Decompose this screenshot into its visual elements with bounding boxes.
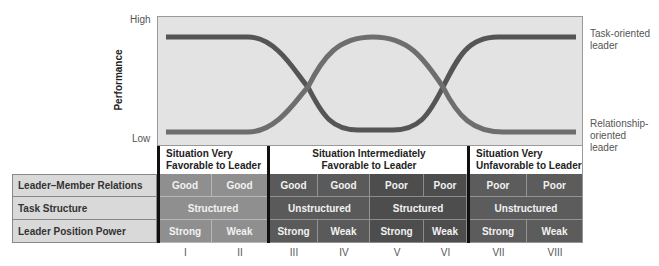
legend-task-oriented: Task-oriented leader: [590, 28, 650, 52]
y-axis-low-label: Low: [132, 133, 150, 144]
lmr-cell-I: Good: [159, 174, 212, 197]
lmr-cell-IV: Good: [318, 174, 370, 197]
performance-chart: [157, 16, 583, 146]
divider-favorable-intermediate: [267, 146, 270, 243]
power-cell-IV: Weak: [318, 220, 370, 243]
legend-rel-line2: oriented: [590, 130, 648, 142]
legend-task-line2: leader: [590, 40, 650, 52]
power-cell-III: Strong: [270, 220, 318, 243]
lmr-cell-VI: Poor: [424, 174, 467, 197]
lmr-cell-VIII: Poor: [527, 174, 583, 197]
task-structure-cell-III-IV: Unstructured: [270, 197, 370, 220]
task-structure-cell-VII-VIII: Unstructured: [470, 197, 583, 220]
task-oriented-curve: [166, 37, 576, 130]
situation-header-unfavorable: Situation Very Unfavorable to Leader: [470, 146, 583, 174]
situation-header-intermediate: Situation Intermediately Favorable to Le…: [271, 146, 467, 174]
divider-intermediate-unfavorable: [467, 146, 470, 243]
octant-label-VII: VII: [470, 247, 527, 258]
relationship-oriented-curve: [166, 37, 576, 132]
row-label-task-structure: Task Structure: [12, 197, 157, 220]
legend-relationship-oriented: Relationship- oriented leader: [590, 118, 648, 154]
octant-label-II: II: [212, 247, 268, 258]
situation-unfavorable-line1: Situation Very: [476, 148, 582, 160]
lmr-cell-III: Good: [270, 174, 318, 197]
lmr-cell-V: Poor: [370, 174, 424, 197]
row-label-position-power: Leader Position Power: [12, 220, 157, 243]
situation-favorable-line1: Situation Very: [166, 148, 268, 160]
task-structure-cell-I-II: Structured: [159, 197, 268, 220]
octant-label-IV: IV: [318, 247, 370, 258]
y-axis-title: Performance: [113, 49, 124, 110]
situation-unfavorable-line2: Unfavorable to Leader: [476, 160, 582, 172]
lmr-cell-VII: Poor: [470, 174, 527, 197]
octant-label-III: III: [270, 247, 318, 258]
legend-task-line1: Task-oriented: [590, 28, 650, 40]
legend-rel-line3: leader: [590, 142, 648, 154]
situation-intermediate-line2: Favorable to Leader: [271, 160, 467, 172]
row-label-leader-member-relations: Leader–Member Relations: [12, 174, 157, 197]
situation-intermediate-line1: Situation Intermediately: [271, 148, 467, 160]
performance-curves: [158, 17, 584, 147]
power-cell-VIII: Weak: [527, 220, 583, 243]
task-structure-cell-V-VI: Structured: [370, 197, 467, 220]
divider-left: [157, 146, 160, 243]
power-cell-V: Strong: [370, 220, 424, 243]
power-cell-VII: Strong: [470, 220, 527, 243]
octant-label-VI: VI: [424, 247, 467, 258]
situation-favorable-line2: Favorable to Leader: [166, 160, 268, 172]
octant-label-V: V: [370, 247, 424, 258]
octant-label-VIII: VIII: [527, 247, 583, 258]
power-cell-II: Weak: [212, 220, 268, 243]
legend-rel-line1: Relationship-: [590, 118, 648, 130]
y-axis-high-label: High: [130, 14, 151, 25]
lmr-cell-II: Good: [212, 174, 268, 197]
power-cell-I: Strong: [159, 220, 212, 243]
situation-header-favorable: Situation Very Favorable to Leader: [160, 146, 268, 174]
power-cell-VI: Weak: [424, 220, 467, 243]
octant-label-I: I: [159, 247, 212, 258]
